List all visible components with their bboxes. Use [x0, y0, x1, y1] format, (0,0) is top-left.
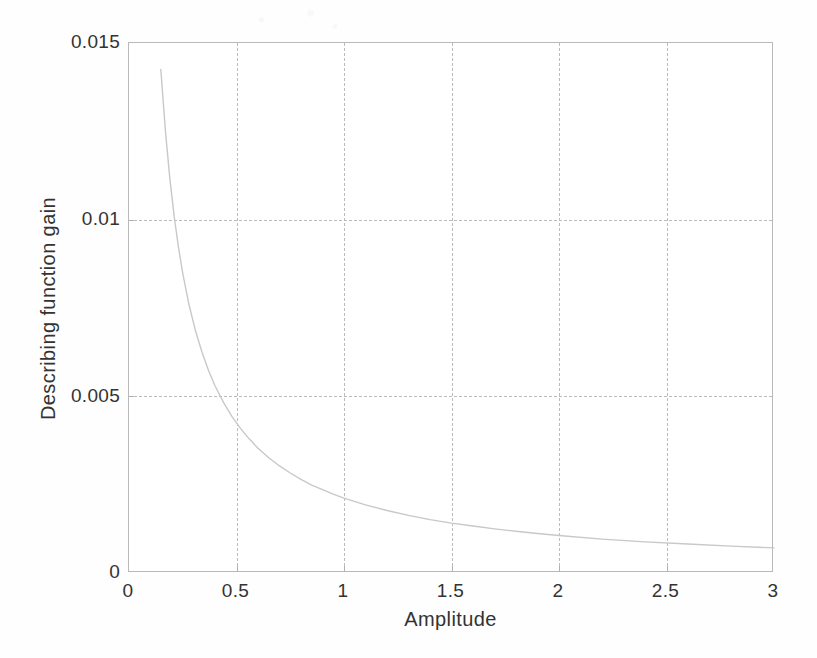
- x-tick-label-1: 1: [338, 580, 349, 602]
- y-axis-title: Describing function gain: [37, 144, 60, 474]
- figure-canvas: 0.015 0.01 0.005 0 0 0.5 1 1.5 2: [0, 0, 817, 658]
- series-line-describing-function-gain: [161, 70, 774, 548]
- x-axis-tick-labels: 0 0.5 1 1.5 2 2.5 3: [128, 580, 773, 606]
- x-tick-label-0.5: 0.5: [222, 580, 249, 602]
- y-axis-tick-labels: 0.015 0.01 0.005 0: [0, 42, 120, 572]
- y-tick-label-0.005: 0.005: [8, 385, 120, 407]
- x-tick-label-2.5: 2.5: [652, 580, 679, 602]
- x-tick-label-2: 2: [553, 580, 564, 602]
- x-tick-label-3: 3: [768, 580, 779, 602]
- data-curve-layer: [129, 43, 774, 573]
- x-axis-title: Amplitude: [128, 608, 773, 631]
- y-tick-label-0: 0: [8, 561, 120, 583]
- x-tick-label-0: 0: [123, 580, 134, 602]
- y-tick-label-0.01: 0.01: [8, 208, 120, 230]
- plot-area: [128, 42, 773, 572]
- x-tick-label-1.5: 1.5: [437, 580, 464, 602]
- y-tick-label-0.015: 0.015: [8, 31, 120, 53]
